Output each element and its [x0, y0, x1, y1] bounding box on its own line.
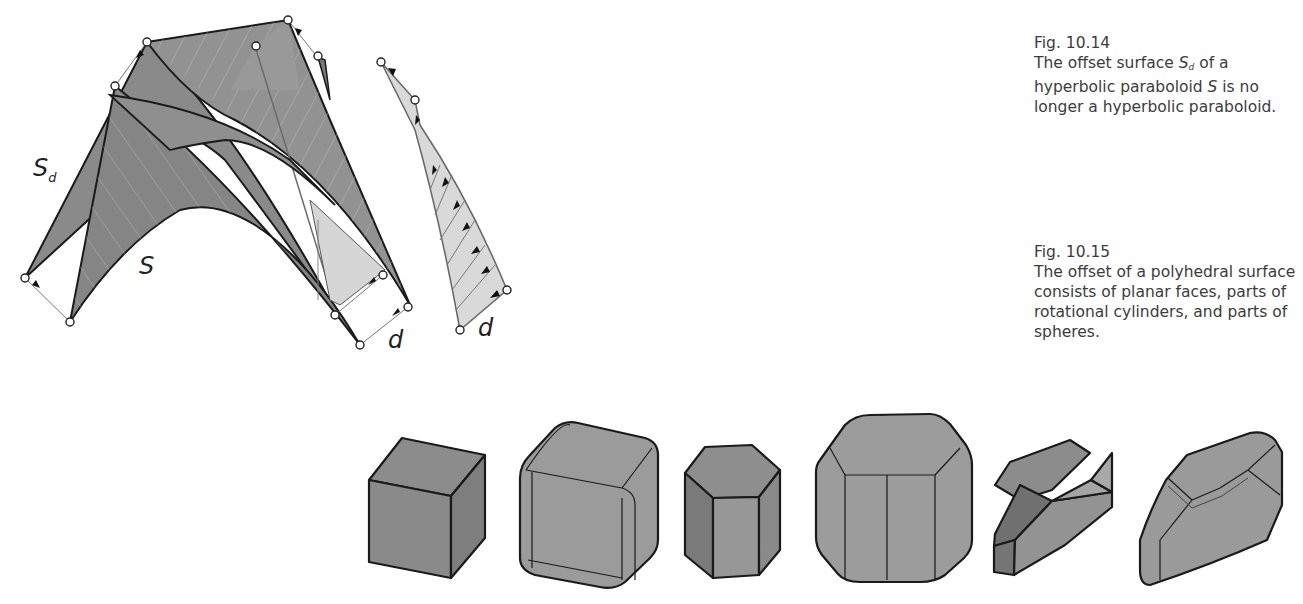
- caption-text: The offset surface Sd of a hyperbolic pa…: [1034, 53, 1299, 117]
- label-d-left: d: [388, 326, 404, 354]
- solid-polyhedron-offset: [1140, 432, 1282, 585]
- label-sd: Sd: [33, 154, 57, 185]
- solid-polyhedron: [994, 440, 1112, 575]
- solid-cube: [369, 438, 485, 578]
- solid-hexagonal-prism-offset: [816, 414, 972, 582]
- caption-fig-10-14: Fig. 10.14 The offset surface Sd of a hy…: [1034, 33, 1299, 117]
- caption-text: The offset of a polyhedral surface consi…: [1034, 262, 1299, 342]
- figure-number: Fig. 10.14: [1034, 33, 1299, 53]
- label-s: S: [139, 252, 154, 280]
- figure-number: Fig. 10.15: [1034, 242, 1299, 262]
- caption-fig-10-15: Fig. 10.15 The offset of a polyhedral su…: [1034, 242, 1299, 342]
- figure-10-15-polyhedral-offsets: [360, 400, 1303, 590]
- figure-10-14-hyperbolic-paraboloid-offset: Sd S d d: [0, 0, 540, 360]
- solid-cube-offset: [520, 422, 658, 588]
- surface-s: [70, 86, 385, 345]
- label-d-right: d: [478, 314, 494, 342]
- solid-hexagonal-prism: [685, 445, 780, 578]
- offset-strip: [377, 58, 511, 334]
